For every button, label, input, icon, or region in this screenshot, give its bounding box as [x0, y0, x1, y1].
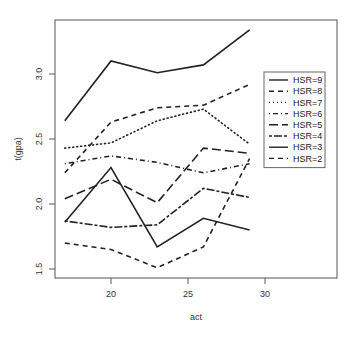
- x-axis: 202530: [106, 278, 270, 299]
- x-axis-title: act: [190, 312, 203, 322]
- legend-label: HSR=3: [293, 142, 322, 152]
- y-tick-label: 1.5: [34, 263, 44, 276]
- series-lines: [65, 30, 250, 268]
- legend-label: HSR=6: [293, 109, 322, 119]
- legend-label: HSR=4: [293, 131, 322, 141]
- y-tick-label: 3.0: [34, 68, 44, 81]
- line-chart: 202530 1.52.02.53.0 HSR=9HSR=8HSR=7HSR=6…: [0, 0, 355, 340]
- series-line-hsr-9: [65, 30, 250, 121]
- series-line-hsr-3: [65, 168, 250, 247]
- y-axis-title: t(gpa): [13, 137, 23, 161]
- legend-label: HSR=5: [293, 120, 322, 130]
- legend-label: HSR=7: [293, 98, 322, 108]
- legend: HSR=9HSR=8HSR=7HSR=6HSR=5HSR=4HSR=3HSR=2: [264, 72, 325, 168]
- legend-label: HSR=8: [293, 86, 322, 96]
- x-tick-label: 20: [106, 289, 116, 299]
- legend-label: HSR=2: [293, 154, 322, 164]
- series-line-hsr-6: [65, 156, 250, 173]
- series-line-hsr-7: [65, 109, 250, 148]
- y-tick-label: 2.0: [34, 198, 44, 211]
- series-line-hsr-5: [65, 148, 250, 203]
- y-tick-label: 2.5: [34, 133, 44, 146]
- series-line-hsr-4: [65, 188, 250, 227]
- x-tick-label: 25: [183, 289, 193, 299]
- x-tick-label: 30: [260, 289, 270, 299]
- y-axis: 1.52.02.53.0: [34, 68, 55, 276]
- series-line-hsr-2: [65, 159, 250, 268]
- legend-label: HSR=9: [293, 75, 322, 85]
